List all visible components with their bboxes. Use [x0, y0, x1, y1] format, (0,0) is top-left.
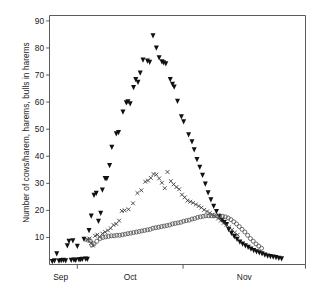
y-tick-label: 40: [18, 152, 44, 160]
data-point-triangle: [131, 85, 136, 90]
data-point-triangle: [151, 33, 156, 38]
y-axis-ticks: [46, 21, 49, 238]
axis-frame: [50, 16, 306, 265]
x-axis-ticks: [77, 265, 305, 269]
data-point-triangle: [100, 187, 105, 192]
data-point-triangle: [65, 243, 70, 248]
data-point-triangle: [208, 197, 213, 202]
data-point-triangle: [279, 256, 284, 261]
x-axis-month-label: Nov: [222, 273, 266, 281]
data-point-cross: [154, 173, 158, 177]
data-point-triangle: [109, 145, 114, 150]
data-point-triangle: [194, 157, 199, 162]
data-point-cross: [160, 181, 164, 185]
data-point-triangle: [128, 101, 133, 106]
data-point-cross: [149, 176, 153, 180]
data-point-circle: [260, 246, 264, 250]
data-point-triangle: [89, 213, 94, 218]
data-point-triangle: [175, 99, 180, 104]
figure: Number of cows/harem, harems, bulls in h…: [0, 0, 320, 291]
data-point-triangle: [140, 58, 145, 63]
data-point-cross: [127, 207, 131, 211]
data-point-triangle: [70, 238, 75, 243]
data-point-cross: [177, 187, 181, 191]
data-point-cross: [117, 219, 121, 223]
series-0: [50, 33, 284, 264]
y-tick-label: 90: [18, 17, 44, 25]
data-point-triangle: [107, 163, 112, 168]
data-point-triangle: [197, 165, 202, 170]
data-point-triangle: [200, 173, 205, 178]
y-tick-label: 80: [18, 44, 44, 52]
data-point-cross: [163, 186, 167, 190]
data-point-triangle: [98, 211, 103, 216]
y-tick-label: 60: [18, 98, 44, 106]
data-point-triangle: [135, 80, 140, 85]
y-tick-label: 10: [18, 233, 44, 241]
scatter-plot-canvas: [0, 0, 320, 291]
series-1: [85, 170, 239, 247]
series-2: [86, 214, 264, 250]
data-point-cross: [139, 188, 143, 192]
data-point-triangle: [87, 228, 92, 233]
y-tick-label: 50: [18, 125, 44, 133]
data-point-triangle: [154, 46, 159, 51]
data-point-cross: [123, 208, 127, 212]
y-tick-label: 70: [18, 71, 44, 79]
data-point-cross: [131, 201, 135, 205]
data-point-triangle: [203, 181, 208, 186]
data-point-triangle: [186, 132, 191, 137]
x-axis-month-label: Sep: [39, 273, 83, 281]
data-point-cross: [233, 231, 237, 235]
data-point-triangle: [192, 147, 197, 152]
data-point-cross: [174, 185, 178, 189]
data-point-triangle: [75, 244, 80, 249]
data-point-cross: [136, 191, 140, 195]
data-point-cross: [157, 177, 161, 181]
data-point-triangle: [120, 109, 125, 114]
data-point-cross: [166, 170, 170, 174]
y-tick-label: 30: [18, 179, 44, 187]
data-point-triangle: [181, 119, 186, 124]
data-point-triangle: [138, 71, 143, 76]
data-point-triangle: [168, 77, 173, 82]
x-axis-month-label: Oct: [108, 273, 152, 281]
data-point-triangle: [179, 114, 184, 119]
data-point-triangle: [96, 219, 101, 224]
data-point-triangle: [172, 85, 177, 90]
data-point-triangle: [189, 139, 194, 144]
data-point-triangle: [211, 204, 216, 209]
y-tick-label: 20: [18, 206, 44, 214]
data-point-triangle: [206, 190, 211, 195]
data-point-triangle: [54, 251, 59, 256]
